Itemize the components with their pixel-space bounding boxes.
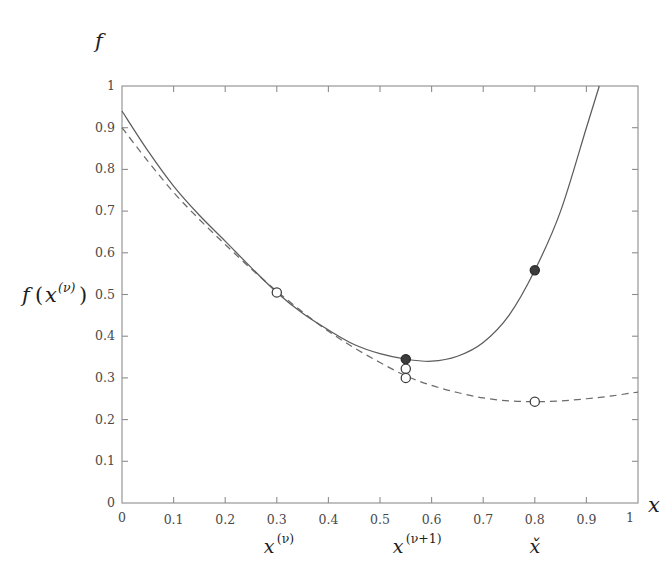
- figure-container: f f ( x (ν) ) x 00.10.20.30.40.50.60.70.…: [0, 0, 669, 576]
- plot-frame: [122, 86, 638, 503]
- y-axis-label: f ( x (ν) ): [20, 280, 87, 307]
- x-tick-label: 0.7: [473, 512, 493, 527]
- y-axis-ticks: 00.10.20.30.40.50.60.70.80.91: [95, 78, 638, 510]
- x-axis-annotations: x(ν)x(ν+1)x̌: [264, 531, 541, 557]
- x-tick-label: 0.1: [164, 512, 184, 527]
- y-axis-label-f: f: [20, 283, 33, 307]
- marker-iterate-next-on-f: [401, 355, 410, 364]
- y-tick-label: 0.9: [95, 120, 115, 135]
- y-tick-label: 0: [107, 495, 115, 510]
- curve-objective-solid: [122, 86, 599, 361]
- y-tick-label: 0.1: [95, 453, 115, 468]
- annotation-x-model-minimizer: x̌: [529, 535, 540, 557]
- y-axis-label-superscript: (ν): [58, 280, 75, 295]
- x-tick-label: 0.6: [422, 512, 442, 527]
- marker-iterate-current-on-f: [272, 288, 281, 297]
- x-axis-label: x: [648, 493, 660, 517]
- x-tick-label: 0.9: [576, 512, 596, 527]
- y-tick-label: 0.7: [95, 203, 115, 218]
- marker-trial-point-on-f: [530, 266, 539, 275]
- annotation-var: x: [393, 535, 404, 557]
- annotation-superscript: (ν+1): [406, 531, 442, 546]
- y-tick-label: 0.6: [95, 245, 115, 260]
- x-tick-label: 0.8: [525, 512, 545, 527]
- x-tick-label: 0.3: [267, 512, 287, 527]
- y-tick-label: 0.8: [95, 161, 115, 176]
- y-tick-label: 1: [107, 78, 115, 93]
- annotation-superscript: (ν): [277, 531, 294, 546]
- y-axis-label-open-paren: (: [35, 283, 43, 307]
- annotation-var: x: [264, 535, 275, 557]
- x-tick-label: 0.2: [215, 512, 235, 527]
- y-axis-label-close-paren: ): [79, 283, 87, 307]
- x-tick-label: 0: [118, 510, 126, 525]
- x-tick-label: 0.5: [370, 512, 390, 527]
- plot-svg: f f ( x (ν) ) x 00.10.20.30.40.50.60.70.…: [0, 0, 669, 576]
- annotation-var: x̌: [529, 535, 540, 557]
- x-tick-label: 0.4: [318, 512, 338, 527]
- marker-model-minimizer: [530, 397, 539, 406]
- figure-top-label: f: [93, 29, 106, 53]
- marker-iterate-next-on-model-upper: [401, 364, 410, 373]
- annotation-x-iterate-nu: x(ν): [264, 531, 294, 557]
- data-point-markers: [272, 266, 539, 407]
- x-tick-label: 1: [626, 510, 634, 525]
- curve-model-dashed: [122, 128, 638, 402]
- annotation-x-iterate-nu-plus-1: x(ν+1): [393, 531, 442, 557]
- y-tick-label: 0.5: [95, 287, 115, 302]
- y-axis-label-var: x: [45, 283, 57, 307]
- marker-iterate-next-on-model-lower: [401, 373, 410, 382]
- y-tick-label: 0.3: [95, 370, 115, 385]
- y-tick-label: 0.2: [95, 412, 115, 427]
- x-axis-ticks: 00.10.20.30.40.50.60.70.80.91: [118, 86, 634, 527]
- y-tick-label: 0.4: [95, 328, 115, 343]
